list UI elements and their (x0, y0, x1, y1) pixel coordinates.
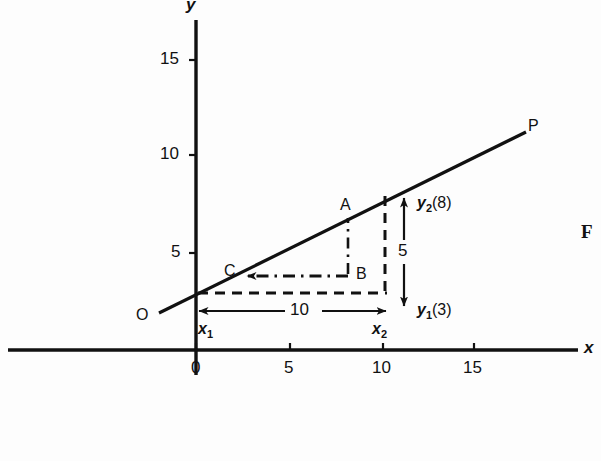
x2-sub: 2 (381, 328, 387, 340)
y-tick-10: 10 (160, 144, 179, 164)
y-tick-5: 5 (171, 242, 180, 262)
y-axis (189, 20, 196, 375)
y-tick-15: 15 (160, 49, 179, 69)
figure-caption-partial: F (581, 221, 593, 243)
x-tick-15: 15 (463, 358, 482, 378)
point-label-C: C (224, 262, 236, 280)
variable-label-y1: y1(3) (417, 301, 452, 321)
x-tick-5: 5 (284, 358, 293, 378)
y1-base: y (417, 301, 426, 318)
coordinate-graph-figure (0, 0, 601, 461)
variable-label-x2: x2 (372, 320, 387, 340)
x-axis (8, 343, 578, 350)
x-tick-0: 0 (191, 358, 200, 378)
y1-value: (3) (432, 301, 452, 318)
point-label-O: O (136, 306, 148, 324)
x1-sub: 1 (207, 328, 213, 340)
point-label-A: A (340, 196, 351, 214)
y2-base: y (417, 194, 426, 211)
x-tick-10: 10 (372, 358, 391, 378)
x1-base: x (198, 320, 207, 337)
rise-dimension-label: 5 (398, 241, 407, 261)
x-axis-label: x (584, 338, 593, 358)
y-axis-label: y (186, 0, 195, 15)
x2-base: x (372, 320, 381, 337)
run-dimension-label: 10 (290, 300, 309, 320)
variable-label-x1: x1 (198, 320, 213, 340)
point-label-B: B (356, 265, 367, 283)
point-label-P: P (528, 117, 539, 135)
line-OP (159, 132, 526, 313)
variable-label-y2: y2(8) (417, 194, 452, 214)
y2-value: (8) (432, 194, 452, 211)
